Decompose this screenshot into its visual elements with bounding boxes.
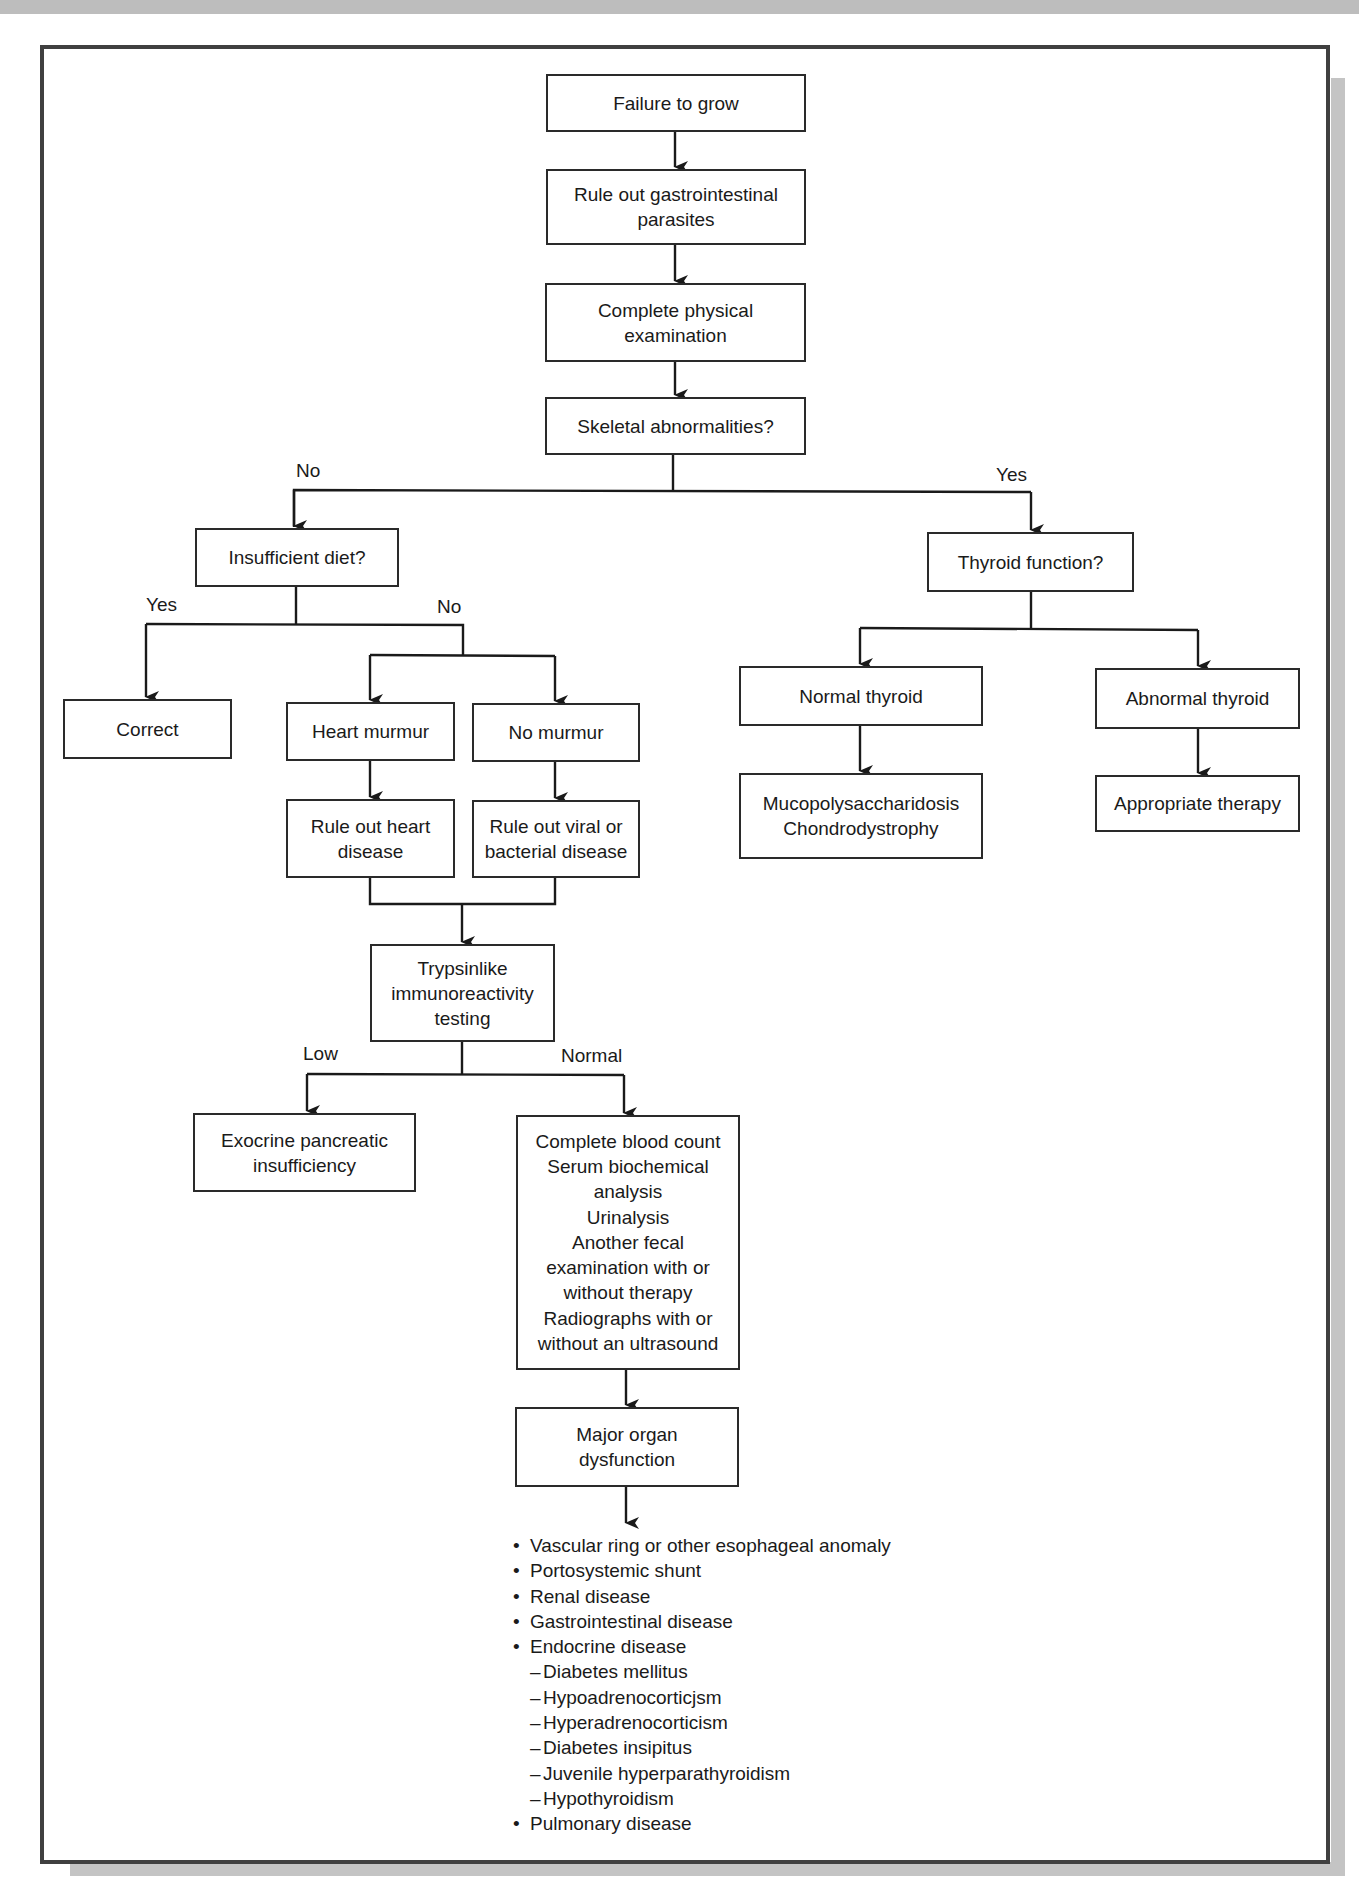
node-heart-murmur: Heart murmur [286,702,455,761]
node-physical-exam: Complete physical examination [545,283,806,362]
list-item: Portosystemic shunt [510,1558,891,1583]
list-subitem: –Juvenile hyperparathyroidism [510,1761,891,1786]
list-item: Vascular ring or other esophageal anomal… [510,1533,891,1558]
node-insufficient-diet: Insufficient diet? [195,528,399,587]
node-rule-out-gi-parasites: Rule out gastrointestinal parasites [546,169,806,245]
edge-label-tli-normal: Normal [561,1045,622,1067]
node-rule-out-viral-bacterial: Rule out viral or bacterial disease [472,800,640,878]
node-major-organ-dysfunction: Major organ dysfunction [515,1407,739,1487]
node-exocrine-pancreatic-insufficiency: Exocrine pancreatic insufficiency [193,1113,416,1192]
list-subitem: –Diabetes mellitus [510,1659,891,1684]
node-normal-thyroid: Normal thyroid [739,666,983,726]
node-abnormal-thyroid: Abnormal thyroid [1095,668,1300,729]
outcome-list: Vascular ring or other esophageal anomal… [510,1533,891,1837]
edge-label-diet-yes: Yes [146,594,177,616]
list-subitem: –Diabetes insipitus [510,1735,891,1760]
list-item: Pulmonary disease [510,1811,891,1836]
list-subitem: –Hypoadrenocorticjsm [510,1685,891,1710]
node-rule-out-heart-disease: Rule out heart disease [286,799,455,878]
edge-label-diet-no: No [437,596,461,618]
node-thyroid-function: Thyroid function? [927,532,1134,592]
node-no-murmur: No murmur [472,703,640,762]
node-correct: Correct [63,699,232,759]
node-tli-testing: Trypsinlike immunoreactivity testing [370,944,555,1042]
node-skeletal-abnormalities: Skeletal abnormalities? [545,397,806,455]
list-item: Gastrointestinal disease [510,1609,891,1634]
list-item: Renal disease [510,1584,891,1609]
list-subitem: –Hypothyroidism [510,1786,891,1811]
node-failure-to-grow: Failure to grow [546,74,806,132]
node-mps-chondrodystrophy: Mucopolysaccharidosis Chondrodystrophy [739,773,983,859]
list-item: Endocrine disease [510,1634,891,1659]
edge-label-skeletal-yes: Yes [996,464,1027,486]
node-appropriate-therapy: Appropriate therapy [1095,775,1300,832]
node-further-workup: Complete blood count Serum biochemical a… [516,1115,740,1370]
list-subitem: –Hyperadrenocorticism [510,1710,891,1735]
edge-label-skeletal-no: No [296,460,320,482]
edge-label-tli-low: Low [303,1043,338,1065]
